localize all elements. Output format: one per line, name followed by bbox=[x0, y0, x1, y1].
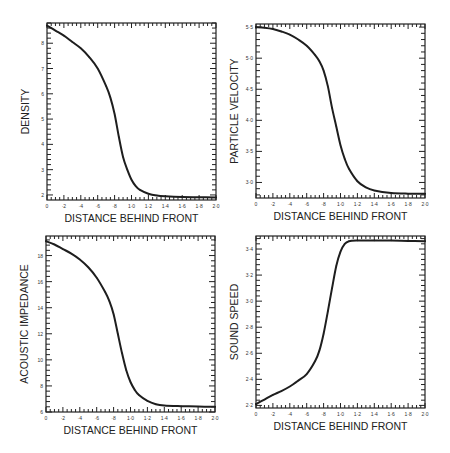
data-point bbox=[45, 241, 46, 242]
data-point bbox=[135, 185, 136, 186]
x-tick-label: ·8 bbox=[321, 201, 326, 207]
x-tick-label: 0 bbox=[45, 415, 48, 421]
data-point bbox=[281, 390, 282, 391]
series-line-particle-velocity bbox=[256, 27, 425, 194]
plot-frame bbox=[256, 236, 425, 408]
y-tick-label: 4·0 bbox=[246, 117, 253, 123]
data-point bbox=[340, 145, 341, 146]
x-tick-label: 0 bbox=[255, 201, 258, 207]
data-point bbox=[164, 405, 165, 406]
data-point bbox=[148, 193, 149, 194]
x-tick-label: 1·4 bbox=[161, 415, 168, 421]
data-point bbox=[336, 265, 337, 266]
data-point bbox=[72, 41, 73, 42]
data-point bbox=[80, 48, 81, 49]
x-tick-label: 1·4 bbox=[162, 203, 169, 209]
data-point bbox=[138, 394, 139, 395]
data-point bbox=[156, 195, 157, 196]
x-tick-label: 1·0 bbox=[128, 203, 135, 209]
data-point bbox=[319, 350, 320, 351]
data-point bbox=[348, 241, 349, 242]
y-axis-title: PARTICLE VELOCITY bbox=[228, 58, 240, 163]
x-axis-title: DISTANCE BEHIND FRONT bbox=[274, 210, 409, 222]
data-point bbox=[306, 45, 307, 46]
data-point bbox=[121, 353, 122, 354]
x-tick-label: 1·6 bbox=[388, 411, 395, 417]
data-point bbox=[55, 30, 56, 31]
x-tick-label: 1·4 bbox=[371, 411, 378, 417]
x-tick-label: ·2 bbox=[61, 415, 66, 421]
data-point bbox=[344, 243, 345, 244]
plot-frame bbox=[47, 23, 216, 200]
data-point bbox=[127, 169, 128, 170]
y-tick-label: 5·5 bbox=[246, 24, 253, 30]
data-point bbox=[165, 196, 166, 197]
x-tick-label: 2·0 bbox=[212, 203, 219, 209]
data-point bbox=[62, 248, 63, 249]
x-tick-label: 1·2 bbox=[354, 411, 361, 417]
data-point bbox=[344, 158, 345, 159]
data-point bbox=[110, 97, 111, 98]
data-point bbox=[374, 240, 375, 241]
data-point bbox=[264, 399, 265, 400]
x-tick-label: 1·6 bbox=[388, 201, 395, 207]
x-tick-label: ·4 bbox=[78, 415, 83, 421]
x-tick-label: 2·0 bbox=[211, 415, 218, 421]
x-tick-label: 2·0 bbox=[421, 411, 428, 417]
data-point bbox=[105, 291, 106, 292]
x-tick-label: 1·8 bbox=[194, 415, 201, 421]
data-point bbox=[126, 370, 127, 371]
x-tick-label: 1·8 bbox=[195, 203, 202, 209]
y-tick-label: 3·0 bbox=[246, 298, 253, 304]
data-point bbox=[391, 192, 392, 193]
data-point bbox=[118, 136, 119, 137]
data-point bbox=[181, 406, 182, 407]
y-tick-label: 3·2 bbox=[246, 272, 253, 278]
data-point bbox=[408, 193, 409, 194]
x-tick-label: 1·4 bbox=[371, 201, 378, 207]
data-point bbox=[54, 244, 55, 245]
y-tick-label: 5 bbox=[41, 116, 44, 122]
x-tick-label: ·8 bbox=[112, 203, 117, 209]
x-axis-title: DISTANCE BEHIND FRONT bbox=[64, 424, 199, 436]
y-axis-title: DENSITY bbox=[19, 89, 31, 135]
y-tick-label: 4 bbox=[41, 141, 44, 147]
figure: 0·2·4·6·81·01·21·41·61·82·02345678DISTAN… bbox=[0, 0, 450, 453]
data-point bbox=[46, 25, 47, 26]
x-tick-label: ·6 bbox=[304, 411, 309, 417]
x-axis-title: DISTANCE BEHIND FRONT bbox=[274, 420, 409, 432]
y-tick-label: 2·2 bbox=[246, 402, 253, 408]
x-tick-label: 1·0 bbox=[337, 411, 344, 417]
x-tick-label: 1·6 bbox=[178, 415, 185, 421]
x-tick-label: ·6 bbox=[94, 415, 99, 421]
data-point bbox=[155, 404, 156, 405]
x-tick-label: 1·8 bbox=[404, 201, 411, 207]
data-point bbox=[130, 381, 131, 382]
data-point bbox=[374, 190, 375, 191]
x-tick-label: 0 bbox=[255, 411, 258, 417]
data-point bbox=[319, 61, 320, 62]
x-tick-label: 1·8 bbox=[404, 411, 411, 417]
data-point bbox=[131, 179, 132, 180]
x-tick-label: 0 bbox=[46, 203, 49, 209]
data-point bbox=[255, 27, 256, 28]
x-tick-label: 1·0 bbox=[337, 201, 344, 207]
data-point bbox=[264, 27, 265, 28]
data-point bbox=[298, 380, 299, 381]
x-tick-label: 2·0 bbox=[421, 201, 428, 207]
x-tick-label: ·2 bbox=[271, 411, 276, 417]
x-tick-label: ·8 bbox=[321, 411, 326, 417]
chart-sound-speed: 0·2·4·6·81·01·21·41·61·82·02·22·42·62·83… bbox=[228, 236, 429, 432]
y-tick-label: 5·0 bbox=[246, 55, 253, 61]
data-point bbox=[215, 197, 216, 198]
plot-frame bbox=[46, 236, 215, 412]
series-line-density bbox=[47, 26, 216, 198]
data-point bbox=[391, 240, 392, 241]
x-tick-label: ·4 bbox=[288, 201, 293, 207]
data-point bbox=[289, 34, 290, 35]
x-tick-label: ·2 bbox=[271, 201, 276, 207]
data-point bbox=[424, 241, 425, 242]
data-point bbox=[331, 107, 332, 108]
x-axis-title: DISTANCE BEHIND FRONT bbox=[65, 212, 200, 224]
x-tick-label: 1·2 bbox=[144, 415, 151, 421]
